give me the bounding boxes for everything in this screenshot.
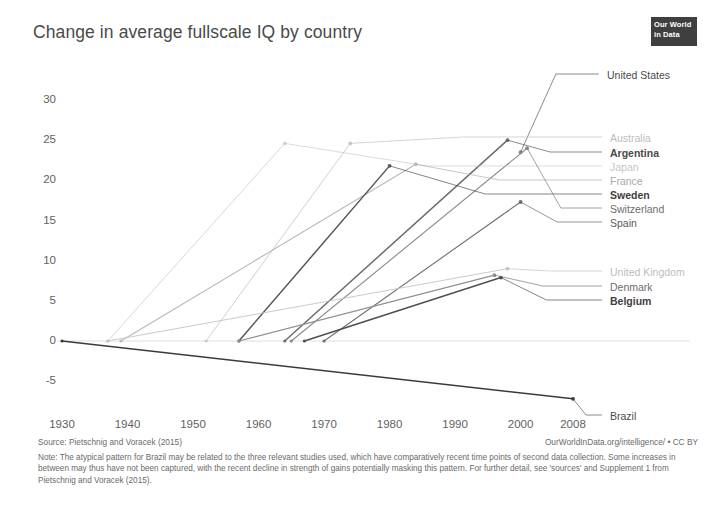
series-leader-line (494, 275, 602, 286)
x-axis-tick: 2000 (499, 418, 543, 430)
series-start-marker (205, 339, 208, 342)
x-axis-tick: 2008 (551, 418, 595, 430)
series-label-spain[interactable]: Spain (610, 218, 637, 229)
x-axis-tick: 1950 (171, 418, 215, 430)
y-axis-tick: 0 (30, 334, 56, 346)
series-line-brazil[interactable] (62, 341, 573, 399)
series-start-marker (60, 339, 63, 342)
y-axis-tick: 10 (30, 254, 56, 266)
series-start-marker (283, 339, 286, 342)
y-axis-tick: 15 (30, 214, 56, 226)
series-leader-line (521, 202, 602, 222)
series-end-marker (525, 146, 529, 150)
series-leader-line (507, 269, 602, 271)
chart-canvas: Change in average fullscale IQ by countr… (0, 0, 720, 505)
series-leader-line (416, 164, 602, 180)
series-label-united-states[interactable]: United States (607, 70, 670, 81)
series-start-marker (303, 339, 306, 342)
series-start-marker (237, 339, 240, 342)
y-axis-tick: 25 (30, 133, 56, 145)
series-line-switzerland[interactable] (291, 148, 527, 341)
series-label-argentina[interactable]: Argentina (610, 148, 659, 159)
x-axis-tick: 1960 (237, 418, 281, 430)
series-leader-line (350, 137, 602, 143)
series-label-sweden[interactable]: Sweden (610, 190, 650, 201)
series-label-france[interactable]: France (610, 176, 643, 187)
series-label-switzerland[interactable]: Switzerland (610, 204, 664, 215)
owid-credit-text: OurWorldInData.org/intelligence/ • CC BY (545, 437, 698, 447)
series-label-japan[interactable]: Japan (610, 162, 639, 173)
series-leader-line (285, 143, 602, 166)
series-label-australia[interactable]: Australia (610, 133, 651, 144)
series-line-japan[interactable] (108, 143, 285, 341)
series-leader-line (573, 399, 602, 415)
series-leader-line (501, 278, 602, 300)
y-axis-tick: 5 (30, 294, 56, 306)
series-leader-line (527, 148, 602, 208)
series-line-belgium[interactable] (304, 278, 501, 341)
series-label-denmark[interactable]: Denmark (610, 282, 653, 293)
y-axis-tick: 20 (30, 173, 56, 185)
source-text: Source: Pietschnig and Voracek (2015) (38, 437, 182, 447)
x-axis-tick: 1990 (433, 418, 477, 430)
x-axis-tick: 1970 (302, 418, 346, 430)
series-start-marker (322, 339, 325, 342)
series-start-marker (119, 339, 122, 342)
series-label-brazil[interactable]: Brazil (610, 411, 636, 422)
x-axis-tick: 1980 (368, 418, 412, 430)
series-label-belgium[interactable]: Belgium (610, 296, 651, 307)
series-start-marker (106, 339, 109, 342)
series-label-united-kingdom[interactable]: United Kingdom (610, 267, 685, 278)
series-start-marker (290, 339, 293, 342)
footnote-text: Note: The atypical pattern for Brazil ma… (38, 452, 688, 486)
x-axis-tick: 1940 (106, 418, 150, 430)
series-line-united-kingdom[interactable] (108, 269, 508, 341)
y-axis-tick: -5 (30, 374, 56, 386)
series-line-australia[interactable] (206, 143, 350, 341)
series-line-denmark[interactable] (239, 275, 495, 341)
y-axis-tick: 30 (30, 93, 56, 105)
x-axis-tick: 1930 (40, 418, 84, 430)
series-leader-line (521, 74, 599, 152)
series-line-france[interactable] (121, 164, 416, 341)
